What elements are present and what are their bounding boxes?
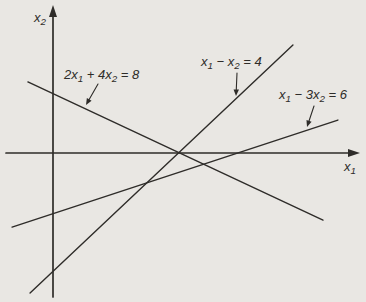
line-x1-3x2=6 <box>12 120 338 227</box>
label-2x1-4x2-8-arrow-shaft <box>88 84 98 102</box>
line-x1-x2=4 <box>30 45 293 293</box>
label-x1-x2-4: x1 − x2 = 4 <box>200 54 262 71</box>
label-x1-x2-4-arrow-head <box>234 89 239 96</box>
y-axis-label: x2 <box>33 10 47 27</box>
label-x1-3x2-6-arrow-head <box>306 120 311 127</box>
label-x1-3x2-6-arrow-shaft <box>308 106 314 123</box>
line-2x1+4x2=8 <box>28 82 323 220</box>
label-x1-x2-4-arrow-shaft <box>236 73 237 92</box>
plot-svg: x1x22x1 + 4x2 = 8x1 − x2 = 4x1 − 3x2 = 6 <box>0 0 366 302</box>
label-x1-3x2-6: x1 − 3x2 = 6 <box>278 87 348 104</box>
line-graph-figure: x1x22x1 + 4x2 = 8x1 − x2 = 4x1 − 3x2 = 6 <box>0 0 366 302</box>
x-axis-label: x1 <box>343 159 356 176</box>
y-axis-arrowhead <box>49 5 57 17</box>
x-axis-arrowhead <box>348 149 360 157</box>
label-2x1-4x2-8: 2x1 + 4x2 = 8 <box>63 67 140 84</box>
